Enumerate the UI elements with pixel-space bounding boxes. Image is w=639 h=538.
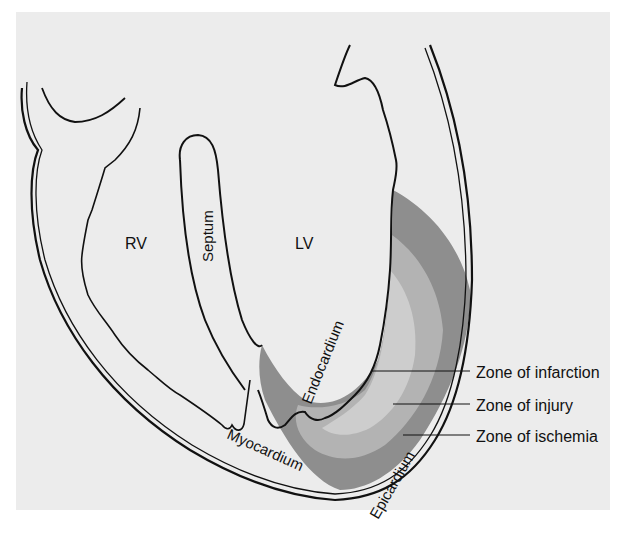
legend-label-infarction: Zone of infarction	[476, 364, 600, 381]
legend-label-injury: Zone of injury	[476, 397, 573, 414]
lv-label: LV	[295, 235, 314, 252]
heart-cross-section-diagram: RV LV Septum Endocardium Myocardium Epic…	[0, 0, 639, 538]
septum-label: Septum	[199, 210, 216, 262]
legend-label-ischemia: Zone of ischemia	[476, 428, 598, 445]
rv-label: RV	[125, 235, 147, 252]
